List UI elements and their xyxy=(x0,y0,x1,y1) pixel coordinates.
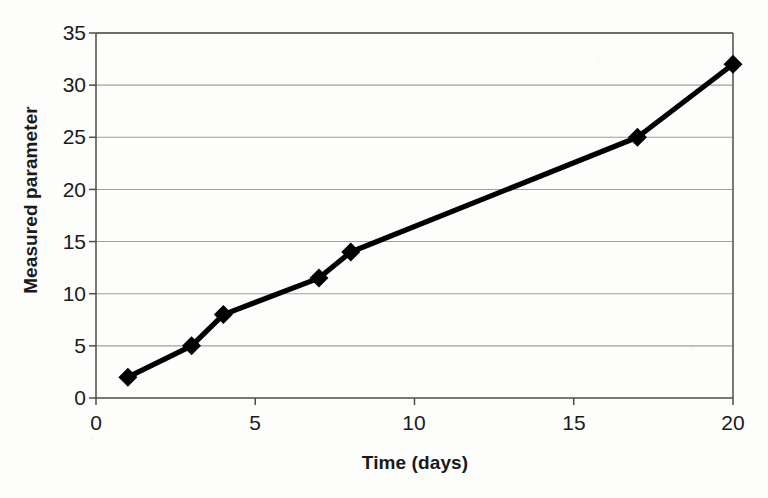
data-point-marker xyxy=(118,368,137,387)
data-line-series-1 xyxy=(128,64,733,377)
plot-area xyxy=(0,0,768,498)
gridlines-group xyxy=(96,33,733,346)
chart-figure: Measured parameter Time (days) 35 30 25 … xyxy=(0,0,768,498)
